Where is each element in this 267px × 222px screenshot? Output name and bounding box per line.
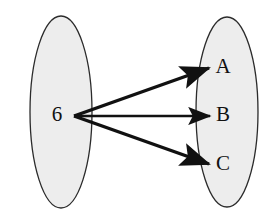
diagram-canvas: 6 A B C xyxy=(0,0,267,222)
domain-element-label-6: 6 xyxy=(44,104,70,125)
arrow-6-to-C xyxy=(74,116,209,164)
codomain-element-label-a: A xyxy=(210,56,236,77)
codomain-element-label-b: B xyxy=(210,104,236,125)
codomain-element-label-c: C xyxy=(210,153,236,174)
arrow-6-to-A xyxy=(74,68,209,116)
